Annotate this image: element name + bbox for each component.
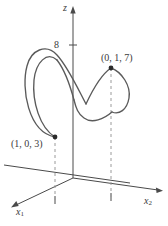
- x2-axis: [73, 178, 158, 190]
- figure-3d-space-curve: z 8 (0, 1, 7) (1, 0, 3) x1 x2: [0, 0, 168, 226]
- x2-axis-label: x2: [144, 196, 152, 207]
- x2-axis-label-subscript: 2: [148, 199, 152, 207]
- space-curve-right-lobe: [111, 68, 129, 113]
- marked-points: [53, 66, 114, 140]
- z-axis-arrowhead: [70, 6, 75, 14]
- point-right-label: (0, 1, 7): [101, 53, 133, 63]
- marker-point-left: [53, 135, 58, 140]
- marker-point-right: [109, 66, 114, 71]
- x2-axis-arrowhead: [156, 187, 163, 193]
- z-axis-label: z: [63, 3, 67, 13]
- space-curve-valley: [74, 100, 112, 121]
- base-plane-ticks: [55, 193, 111, 204]
- x1-axis-label: x1: [16, 207, 24, 218]
- point-left-label: (1, 0, 3): [11, 139, 43, 149]
- projection-lines: [55, 68, 111, 200]
- figure-canvas: [0, 0, 168, 226]
- z-axis-tick-label-8: 8: [54, 40, 59, 50]
- space-curve-to-right-point: [86, 68, 111, 104]
- x1-axis-label-subscript: 1: [20, 210, 24, 218]
- x1-axis: [16, 178, 73, 205]
